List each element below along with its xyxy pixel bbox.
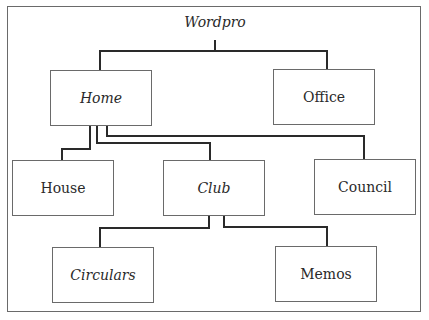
node-circulars: Circulars [52, 247, 154, 303]
connector-wordpro-home [100, 40, 215, 70]
connector-club-circulars [100, 215, 209, 247]
node-council-label: Council [338, 179, 392, 195]
node-office-label: Office [303, 89, 345, 105]
node-club: Club [163, 160, 265, 216]
node-house: House [12, 160, 114, 216]
connector-home-club [97, 125, 210, 160]
folder-tree-diagram: Wordpro Home Office House Club Council C… [0, 0, 429, 320]
connector-home-house [62, 125, 90, 160]
node-memos: Memos [275, 246, 377, 302]
node-home-label: Home [80, 90, 122, 106]
node-club-label: Club [197, 180, 230, 196]
node-home: Home [50, 70, 152, 126]
node-circulars-label: Circulars [70, 267, 135, 283]
connector-wordpro-office [215, 51, 327, 69]
node-memos-label: Memos [300, 266, 352, 282]
connector-club-memos [224, 215, 327, 246]
node-office: Office [273, 69, 375, 125]
node-council: Council [314, 159, 416, 215]
node-house-label: House [40, 180, 85, 196]
root-node-wordpro: Wordpro [165, 14, 265, 30]
